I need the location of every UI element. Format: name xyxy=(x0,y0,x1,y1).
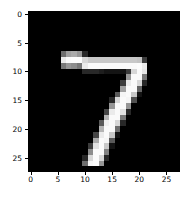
x-tick-label-20: 20 xyxy=(135,175,145,184)
x-tick-label-10: 10 xyxy=(80,175,90,184)
y-tick-mark-5 xyxy=(25,43,28,44)
y-tick-mark-20 xyxy=(25,129,28,130)
x-tick-label-15: 15 xyxy=(107,175,117,184)
y-tick-label-20: 20 xyxy=(0,124,22,133)
digit-image xyxy=(28,11,180,172)
y-tick-mark-0 xyxy=(25,14,28,15)
y-tick-label-10: 10 xyxy=(0,67,22,76)
y-tick-label-15: 15 xyxy=(0,96,22,105)
pixel-27-27 xyxy=(175,166,180,172)
y-tick-label-25: 25 xyxy=(0,153,22,162)
x-tick-label-25: 25 xyxy=(162,175,172,184)
image-axes xyxy=(28,11,180,172)
y-tick-mark-25 xyxy=(25,158,28,159)
y-tick-mark-15 xyxy=(25,100,28,101)
y-tick-label-0: 0 xyxy=(0,9,22,18)
matplotlib-figure: 05101520250510152025 xyxy=(0,0,195,201)
y-tick-label-5: 5 xyxy=(0,38,22,47)
x-tick-label-0: 0 xyxy=(28,175,33,184)
y-tick-mark-10 xyxy=(25,71,28,72)
x-tick-label-5: 5 xyxy=(55,175,60,184)
